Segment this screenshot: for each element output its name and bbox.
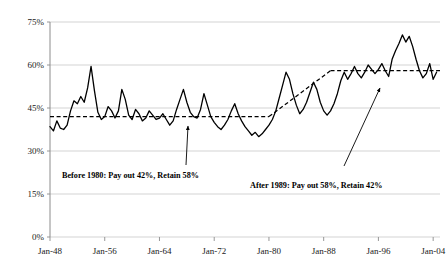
y-tick-label: 15% bbox=[28, 189, 45, 199]
annotation-after-1989-label: After 1989: Pay out 58%, Retain 42% bbox=[250, 181, 382, 190]
x-tick-label: Jan-80 bbox=[257, 246, 281, 256]
y-tick-label: 60% bbox=[28, 60, 45, 70]
chart-background bbox=[0, 0, 448, 276]
x-tick-label: Jan-48 bbox=[38, 246, 62, 256]
x-tick-label: Jan-96 bbox=[366, 246, 390, 256]
x-tick-label: Jan-56 bbox=[93, 246, 117, 256]
chart-canvas: 75%60%45%30%15%0% Jan-48Jan-56Jan-64Jan-… bbox=[0, 0, 448, 276]
x-tick-label: Jan-72 bbox=[202, 246, 226, 256]
x-tick-label: Jan-88 bbox=[312, 246, 336, 256]
y-tick-label: 45% bbox=[28, 103, 45, 113]
y-tick-label: 75% bbox=[28, 17, 45, 27]
y-tick-label: 0% bbox=[32, 232, 45, 242]
payout-ratio-chart: 75%60%45%30%15%0% Jan-48Jan-56Jan-64Jan-… bbox=[0, 0, 448, 276]
y-tick-label: 30% bbox=[28, 146, 45, 156]
annotation-before-1980-label: Before 1980: Pay out 42%, Retain 58% bbox=[62, 171, 199, 180]
x-tick-label: Jan-64 bbox=[147, 246, 171, 256]
x-tick-label: Jan-04 bbox=[421, 246, 445, 256]
